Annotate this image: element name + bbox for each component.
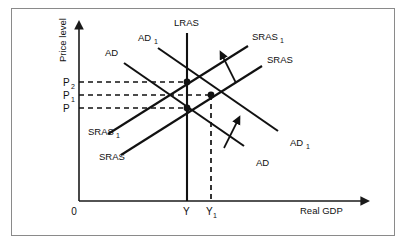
curve-label-ad1-upper-text: AD (138, 32, 151, 43)
tick-label-p0: P (63, 103, 70, 114)
curve-label-sras1-lower-text: SRAS (88, 126, 114, 137)
curve-label-ad-lower-text: AD (256, 157, 269, 168)
curve-label-sras1-upper-subscript: 1 (280, 37, 284, 44)
curve-label-sras1-lower-subscript: 1 (116, 132, 120, 139)
curve-label-ad-upper-text: AD (105, 47, 118, 58)
curve-label-sras-lower-text: SRAS (99, 151, 125, 162)
equilibrium-dot-p1-y1 (208, 92, 215, 99)
curve-label-ad-lower: AD (256, 157, 269, 168)
curve-ad1 (158, 48, 278, 131)
tick-label-p2: P 2 (63, 77, 75, 90)
tick-p2-text: P (63, 77, 70, 88)
curve-label-ad1-lower: AD 1 (290, 137, 310, 150)
diagram-canvas: Price level Real GDP 0 P 2 P 1 P Y Y 1 L… (0, 0, 406, 244)
curve-label-ad1-lower-subscript: 1 (306, 143, 310, 150)
tick-p2-subscript: 2 (71, 83, 75, 90)
tick-label-y1: Y 1 (206, 206, 217, 219)
tick-p1-text: P (63, 90, 70, 101)
tick-p1-subscript: 1 (71, 96, 75, 103)
x-axis-label: Real GDP (300, 205, 343, 216)
tick-y0-text: Y (183, 206, 190, 217)
tick-label-p1: P 1 (63, 90, 75, 103)
curve-label-ad1-lower-text: AD (290, 137, 303, 148)
sras-shift-arrow-icon (223, 57, 236, 83)
curve-label-ad-upper: AD (105, 47, 118, 58)
equilibrium-dot-p-y (184, 105, 191, 112)
y-axis-label: Price level (57, 18, 68, 62)
tick-label-y0: Y (183, 206, 190, 217)
curve-label-ad1-upper-subscript: 1 (154, 38, 158, 45)
curve-label-sras-lower: SRAS (99, 151, 125, 162)
curve-label-ad1-upper: AD 1 (138, 32, 158, 45)
curve-label-sras-upper: SRAS (267, 54, 293, 65)
ad-shift-arrow-icon (224, 122, 237, 148)
curve-sras1 (108, 46, 248, 134)
tick-y1-subscript: 1 (213, 212, 217, 219)
tick-p0-text: P (63, 103, 70, 114)
tick-y1-text: Y (206, 206, 213, 217)
curve-label-sras1-upper: SRAS 1 (252, 31, 284, 44)
ad-as-diagram-figure: Price level Real GDP 0 P 2 P 1 P Y Y 1 L… (0, 0, 406, 244)
curve-label-sras1-lower: SRAS 1 (88, 126, 120, 139)
origin-label: 0 (71, 206, 77, 217)
curve-label-sras1-upper-text: SRAS (252, 31, 278, 42)
curve-label-lras: LRAS (174, 17, 199, 28)
curve-ad (124, 63, 244, 146)
curve-label-sras-upper-text: SRAS (267, 54, 293, 65)
equilibrium-dot-p2-y (184, 79, 191, 86)
